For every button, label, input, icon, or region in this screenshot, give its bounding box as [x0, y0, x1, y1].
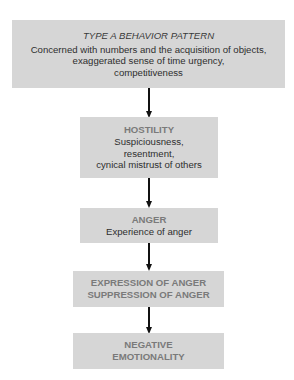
hostility-desc-line: resentment, [124, 148, 175, 160]
hostility-desc-line: cynical mistrust of others [96, 159, 202, 171]
type-a-desc-line: Concerned with numbers and the acquisiti… [31, 44, 267, 56]
hostility-box: HOSTILITY Suspiciousness, resentment, cy… [80, 117, 218, 178]
suppression-title: SUPPRESSION OF ANGER [87, 289, 209, 301]
expression-title: EXPRESSION OF ANGER [91, 277, 206, 289]
type-a-desc-line: competitiveness [114, 67, 183, 79]
type-a-behavior-box: TYPE A BEHAVIOR PATTERN Concerned with n… [12, 20, 285, 88]
anger-desc-line: Experience of anger [106, 226, 192, 238]
negative-title-line: NEGATIVE [124, 339, 172, 351]
hostility-title: HOSTILITY [124, 124, 174, 136]
expression-suppression-box: EXPRESSION OF ANGER SUPPRESSION OF ANGER [73, 271, 224, 307]
type-a-desc-line: exaggerated sense of time urgency, [73, 55, 225, 67]
anger-title: ANGER [132, 214, 167, 226]
anger-box: ANGER Experience of anger [80, 208, 218, 243]
negative-emotionality-box: NEGATIVE EMOTIONALITY [73, 333, 224, 369]
emotionality-title-line: EMOTIONALITY [112, 351, 184, 363]
hostility-desc-line: Suspiciousness, [114, 136, 183, 148]
type-a-title: TYPE A BEHAVIOR PATTERN [83, 30, 214, 42]
